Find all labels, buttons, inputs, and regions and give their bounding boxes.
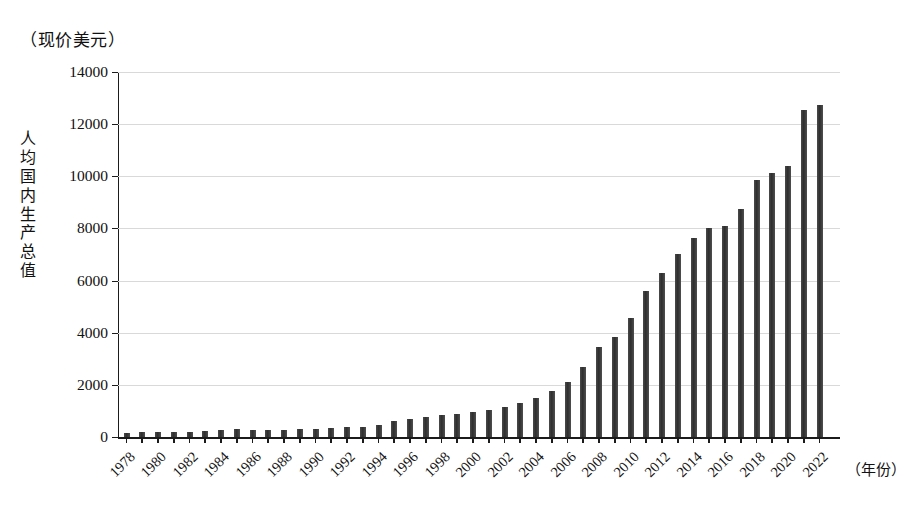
x-tick-label-wrap: 1996 [381, 448, 421, 488]
x-tick [299, 437, 301, 443]
x-tick [488, 437, 490, 443]
bar [596, 347, 602, 437]
y-tick-label: 4000 [77, 324, 108, 342]
x-tick-label-wrap: 1988 [255, 448, 295, 488]
bar [234, 429, 240, 437]
bar [659, 273, 665, 437]
y-tick-label: 14000 [69, 63, 108, 81]
bar [423, 417, 429, 437]
bar-series [118, 72, 840, 437]
x-tick [630, 437, 632, 443]
y-tick-label: 0 [100, 428, 108, 446]
x-tick [724, 437, 726, 443]
x-tick [126, 437, 128, 443]
bar [549, 391, 555, 437]
x-tick [598, 437, 600, 443]
y-tick-label: 8000 [77, 219, 108, 237]
x-tick-label-wrap: 1992 [318, 448, 358, 488]
x-tick [425, 437, 427, 443]
x-tick [740, 437, 742, 443]
x-axis-line [118, 437, 840, 439]
x-tick [756, 437, 758, 443]
bar [486, 410, 492, 437]
bar [439, 415, 445, 437]
x-tick [378, 437, 380, 443]
bar [706, 228, 712, 437]
x-axis-title: （年份） [846, 458, 906, 479]
x-tick-label-wrap: 2014 [665, 448, 705, 488]
x-tick [157, 437, 159, 443]
x-tick [409, 437, 411, 443]
x-tick-label-wrap: 2004 [507, 448, 547, 488]
x-tick [693, 437, 695, 443]
bar [297, 429, 303, 437]
bar [281, 430, 287, 437]
y-tick-label: 12000 [69, 115, 108, 133]
x-tick [220, 437, 222, 443]
x-tick-label-wrap: 2022 [791, 448, 831, 488]
x-tick [582, 437, 584, 443]
x-tick [787, 437, 789, 443]
bar [754, 180, 760, 437]
x-tick [567, 437, 569, 443]
x-tick-label-wrap: 1980 [129, 448, 169, 488]
bar [328, 428, 334, 437]
bar [376, 425, 382, 437]
x-tick [677, 437, 679, 443]
x-tick-label-wrap: 2012 [633, 448, 673, 488]
x-tick [551, 437, 553, 443]
x-tick-label-wrap: 1998 [413, 448, 453, 488]
x-tick [236, 437, 238, 443]
x-tick [645, 437, 647, 443]
bar [533, 398, 539, 437]
x-tick [362, 437, 364, 443]
bar [722, 226, 728, 437]
bar [580, 367, 586, 437]
x-tick-label-wrap: 2018 [728, 448, 768, 488]
bar [565, 382, 571, 437]
x-tick-label-wrap: 2000 [444, 448, 484, 488]
x-tick-label-wrap: 2008 [570, 448, 610, 488]
plot-area: 02000400060008000100001200014000 [118, 72, 840, 437]
x-tick [283, 437, 285, 443]
x-tick [173, 437, 175, 443]
y-axis-title: 人均国内生产总值 [16, 130, 40, 281]
x-tick [252, 437, 254, 443]
bar [470, 412, 476, 437]
bar [612, 337, 618, 437]
y-tick-label: 10000 [69, 167, 108, 185]
x-tick [661, 437, 663, 443]
bar [675, 254, 681, 437]
bar [691, 238, 697, 437]
x-tick [819, 437, 821, 443]
bar [454, 414, 460, 437]
x-tick [393, 437, 395, 443]
x-tick [771, 437, 773, 443]
bar [250, 430, 256, 437]
x-tick-label-wrap: 1994 [350, 448, 390, 488]
x-tick-label-wrap: 1982 [161, 448, 201, 488]
bar [391, 421, 397, 437]
unit-caption: （现价美元） [20, 26, 125, 51]
bar [344, 427, 350, 437]
x-tick-label: 2022 [799, 448, 832, 481]
bar [817, 105, 823, 437]
x-tick-label-wrap: 2016 [696, 448, 736, 488]
bar [517, 403, 523, 437]
x-tick [614, 437, 616, 443]
x-tick [346, 437, 348, 443]
x-tick [708, 437, 710, 443]
x-tick [330, 437, 332, 443]
x-tick [141, 437, 143, 443]
x-tick-label-wrap: 1978 [98, 448, 138, 488]
x-tick-label-wrap: 2010 [602, 448, 642, 488]
bar [360, 427, 366, 437]
x-tick [441, 437, 443, 443]
bar [313, 429, 319, 437]
bar [643, 291, 649, 437]
x-tick [803, 437, 805, 443]
gdp-per-capita-bar-chart: （现价美元） 人均国内生产总值 020004000600080001000012… [0, 0, 921, 531]
x-tick-label-wrap: 2020 [759, 448, 799, 488]
bar [769, 173, 775, 437]
x-tick [315, 437, 317, 443]
